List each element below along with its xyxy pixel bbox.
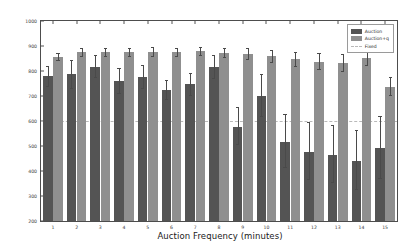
x-tick-label: 1: [51, 225, 54, 230]
error-bar-cap: [141, 65, 144, 66]
error-bar-cap: [389, 95, 392, 96]
y-tick-label: 600: [28, 119, 37, 124]
x-tick-label: 6: [170, 225, 173, 230]
error-bar: [48, 66, 49, 87]
x-tick-mark: [337, 21, 338, 24]
error-bar-cap: [270, 62, 273, 63]
error-bar-cap: [341, 54, 344, 55]
x-tick-label: 11: [287, 225, 293, 230]
bar: [148, 52, 157, 222]
error-bar-cap: [246, 48, 249, 49]
error-bar-cap: [46, 86, 49, 87]
error-bar-cap: [331, 182, 334, 183]
error-bar-cap: [317, 53, 320, 54]
bar: [124, 52, 133, 221]
x-tick-label: 12: [311, 225, 317, 230]
bar: [77, 52, 86, 221]
error-bar-cap: [175, 48, 178, 49]
x-tick-label: 8: [218, 225, 221, 230]
bar: [291, 59, 300, 221]
error-bar-cap: [189, 95, 192, 96]
bar: [43, 76, 52, 221]
error-bar-cap: [317, 69, 320, 70]
error-bar-cap: [365, 65, 368, 66]
error-bar-cap: [260, 74, 263, 75]
x-tick-label: 4: [123, 225, 126, 230]
bar: [385, 87, 394, 221]
legend-label: Fixed: [365, 44, 377, 49]
error-bar: [295, 52, 296, 67]
error-bar: [177, 48, 178, 56]
error-bar-cap: [189, 73, 192, 74]
y-tick-mark: [41, 46, 44, 47]
error-bar-cap: [389, 77, 392, 78]
error-bar-cap: [165, 99, 168, 100]
legend-label: Auction: [365, 29, 382, 34]
error-bar-cap: [94, 77, 97, 78]
error-bar-cap: [307, 122, 310, 123]
bar: [243, 54, 252, 221]
error-bar: [82, 48, 83, 56]
x-tick-label: 15: [382, 225, 388, 230]
error-bar: [224, 48, 225, 57]
error-bar: [105, 48, 106, 56]
error-bar: [238, 107, 239, 145]
error-bar-cap: [117, 93, 120, 94]
x-tick-mark: [242, 21, 243, 24]
figure: Throughput (vehicles/hour) 2003004005006…: [0, 0, 408, 251]
bar: [267, 56, 276, 221]
y-tick-label: 700: [28, 94, 37, 99]
bar: [196, 51, 205, 221]
error-bar: [390, 77, 391, 95]
error-bar-cap: [260, 116, 263, 117]
plot-area: 2003004005006007008009001000 12345678910…: [40, 20, 398, 222]
bar: [53, 57, 62, 222]
bar: [101, 52, 110, 221]
x-tick-mark: [147, 21, 148, 24]
error-bar-cap: [165, 80, 168, 81]
error-bar-cap: [378, 178, 381, 179]
error-bar-cap: [223, 48, 226, 49]
error-bar-cap: [151, 56, 154, 57]
error-bar-cap: [70, 60, 73, 61]
y-tick-mark: [41, 21, 44, 22]
error-bar-cap: [175, 56, 178, 57]
error-bar: [333, 125, 334, 182]
error-bar-cap: [223, 57, 226, 58]
error-bar-cap: [151, 47, 154, 48]
error-bar: [190, 73, 191, 95]
legend-swatch: [351, 46, 362, 47]
error-bar-cap: [46, 66, 49, 67]
bar: [162, 90, 171, 221]
y-tick-label: 1000: [25, 19, 37, 24]
error-bar-cap: [341, 71, 344, 72]
error-bar-cap: [355, 189, 358, 190]
error-bar-cap: [378, 116, 381, 117]
error-bar-cap: [236, 144, 239, 145]
error-bar-cap: [70, 88, 73, 89]
error-bar: [319, 53, 320, 69]
error-bar-cap: [199, 55, 202, 56]
error-bar-cap: [56, 60, 59, 61]
x-tick-mark: [100, 21, 101, 24]
y-tick-label: 200: [28, 219, 37, 224]
x-tick-mark: [124, 21, 125, 24]
legend-item: Auction: [351, 28, 389, 35]
error-bar-cap: [128, 48, 131, 49]
error-bar: [248, 48, 249, 59]
bar: [172, 52, 181, 221]
bar: [219, 53, 228, 221]
error-bar: [309, 122, 310, 180]
error-bar: [272, 50, 273, 62]
error-bar: [143, 65, 144, 88]
y-tick-label: 800: [28, 69, 37, 74]
error-bar: [380, 116, 381, 178]
bar: [185, 84, 194, 221]
error-bar: [343, 54, 344, 71]
legend-item: Auction+q: [351, 35, 389, 42]
x-tick-label: 13: [335, 225, 341, 230]
bar: [362, 58, 371, 221]
bar: [114, 81, 123, 222]
x-tick-mark: [52, 21, 53, 24]
y-tick-label: 400: [28, 169, 37, 174]
